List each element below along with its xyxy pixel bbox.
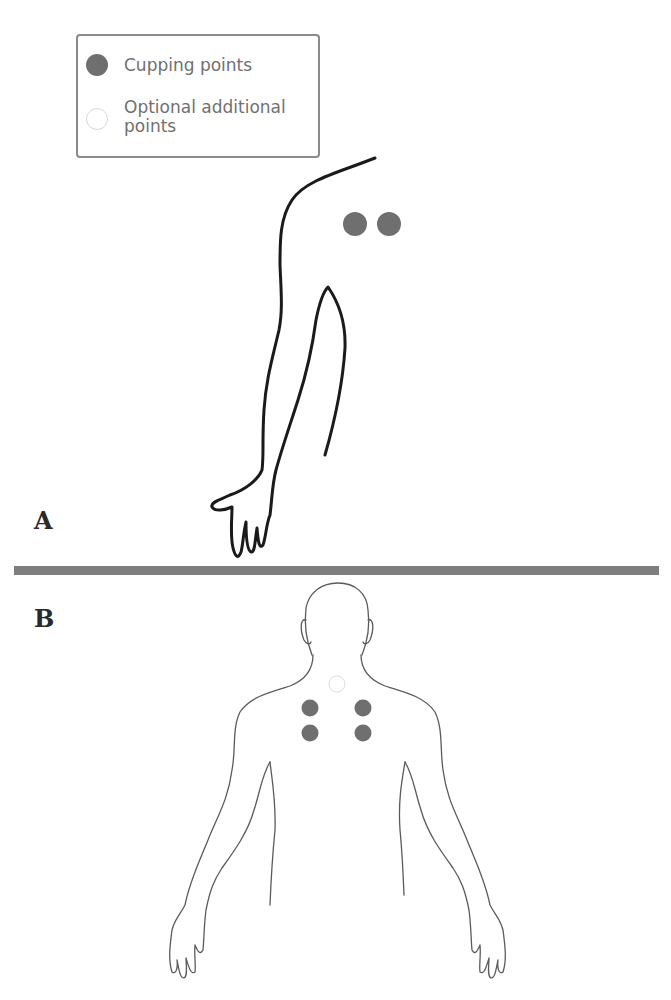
cupping-point [355,700,372,717]
panel-label-a: A [34,506,53,535]
cupping-point [355,725,372,742]
cupping-point [302,700,319,717]
panel-divider [14,566,659,575]
cupping-points-b [302,676,372,742]
cupping-points-a [343,212,401,236]
cupping-point [343,212,367,236]
cupping-point [302,725,319,742]
body-outline-b [170,583,506,978]
diagram-canvas [0,0,671,1000]
optional-point [329,676,345,692]
cupping-point [377,212,401,236]
panel-label-b: B [34,604,54,633]
